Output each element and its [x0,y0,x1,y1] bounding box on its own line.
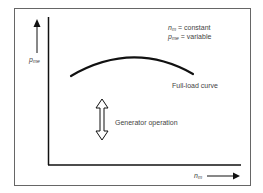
x-axis-label: nm [194,172,202,181]
generator-operation-label: Generator operation [115,119,178,127]
y-axis-subscript: me [33,58,40,64]
full-load-curve-label: Full-load curve [172,82,218,90]
diagram-graphics [0,0,263,193]
full-load-curve [71,57,193,76]
legend-2-text: = variable [179,33,212,40]
legend-1-text: = constant [176,24,210,31]
y-direction-arrow-icon [34,19,41,53]
x-axis-subscript: m [198,174,202,180]
x-direction-arrow-icon [207,173,240,180]
legend-line-2: pme = variable [168,33,211,42]
up-down-double-arrow-icon [96,99,108,140]
legend-2-subscript: me [172,35,179,41]
legend-line-1: nm = constant [168,24,211,33]
y-axis-label: pme [29,56,40,65]
